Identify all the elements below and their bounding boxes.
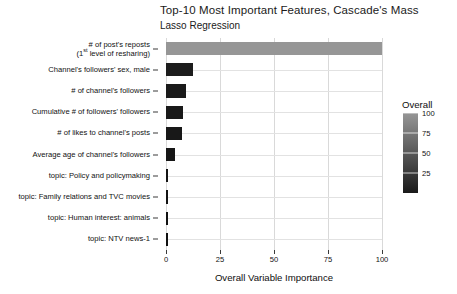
x-tick-mark bbox=[274, 250, 275, 254]
y-tick-mark bbox=[153, 91, 158, 92]
y-tick-label: topic: Policy and policymaking bbox=[49, 171, 150, 180]
bar[interactable] bbox=[166, 212, 168, 225]
bar[interactable] bbox=[166, 63, 193, 76]
gridline-horizontal bbox=[166, 218, 382, 219]
plot-panel bbox=[166, 38, 382, 250]
legend-tick-label: 75 bbox=[422, 129, 430, 138]
x-axis-title: Overall Variable Importance bbox=[166, 272, 382, 283]
bar[interactable] bbox=[166, 148, 175, 161]
y-tick-label: # of likes to channel's posts bbox=[57, 129, 150, 138]
gridline-vertical bbox=[382, 38, 383, 250]
y-tick-mark bbox=[153, 112, 158, 113]
y-tick-label: Average age of channel's followers bbox=[33, 150, 150, 159]
y-tick-mark bbox=[153, 218, 158, 219]
legend-tick-label: 25 bbox=[422, 169, 430, 178]
y-tick-mark bbox=[153, 239, 158, 240]
chart-title: Top-10 Most Important Features, Cascade'… bbox=[160, 4, 419, 16]
bar[interactable] bbox=[166, 42, 382, 55]
x-tick-label: 0 bbox=[164, 255, 168, 264]
legend-bar-wrap: 100755025 bbox=[401, 113, 453, 193]
legend-tick-label: 50 bbox=[422, 149, 430, 158]
x-tick-mark bbox=[328, 250, 329, 254]
gridline-horizontal bbox=[166, 197, 382, 198]
x-tick-label: 75 bbox=[324, 255, 332, 264]
x-tick-label: 100 bbox=[376, 255, 389, 264]
y-tick-mark bbox=[153, 133, 158, 134]
y-tick-label: Cumulative # of followers' followers bbox=[32, 107, 150, 116]
y-tick-mark bbox=[153, 48, 158, 49]
x-tick-label: 50 bbox=[270, 255, 278, 264]
legend-tick-mark bbox=[403, 173, 418, 174]
legend-colorbar: Overall 100755025 bbox=[401, 99, 457, 193]
y-tick-mark bbox=[153, 197, 158, 198]
y-tick-mark bbox=[153, 154, 158, 155]
x-tick-mark bbox=[382, 250, 383, 254]
y-tick-label: # of channel's followers bbox=[71, 86, 150, 95]
legend-tick-label: 100 bbox=[422, 109, 435, 118]
y-axis: # of post's reposts(1st level of reshari… bbox=[0, 38, 158, 250]
x-tick-label: 25 bbox=[216, 255, 224, 264]
gridline-horizontal bbox=[166, 133, 382, 134]
bar[interactable] bbox=[166, 127, 182, 140]
gridline-horizontal bbox=[166, 155, 382, 156]
y-tick-label: Channel's followers' sex, male bbox=[48, 65, 150, 74]
chart-subtitle: Lasso Regression bbox=[160, 20, 240, 31]
y-tick-label: topic: Human interest: animals bbox=[48, 213, 150, 222]
legend-tick-mark bbox=[403, 113, 418, 114]
y-tick-label: topic: Family relations and TVC movies bbox=[18, 192, 150, 201]
bar[interactable] bbox=[166, 190, 168, 203]
gridline-horizontal bbox=[166, 70, 382, 71]
bar[interactable] bbox=[166, 169, 168, 182]
y-tick-mark bbox=[153, 69, 158, 70]
bar[interactable] bbox=[166, 233, 168, 246]
x-tick-mark bbox=[220, 250, 221, 254]
x-tick-mark bbox=[166, 250, 167, 254]
y-tick-mark bbox=[153, 175, 158, 176]
gridline-horizontal bbox=[166, 176, 382, 177]
gridline-horizontal bbox=[166, 239, 382, 240]
bar[interactable] bbox=[166, 106, 183, 119]
bar[interactable] bbox=[166, 84, 186, 97]
y-tick-label: # of post's reposts(1st level of reshari… bbox=[76, 39, 150, 58]
legend-tick-mark bbox=[403, 153, 418, 154]
y-tick-label: topic: NTV news-1 bbox=[88, 235, 150, 244]
y-tick-label-line: (1st level of resharing) bbox=[76, 49, 150, 58]
legend-tick-mark bbox=[403, 133, 418, 134]
gridline-horizontal bbox=[166, 112, 382, 113]
gridline-horizontal bbox=[166, 91, 382, 92]
